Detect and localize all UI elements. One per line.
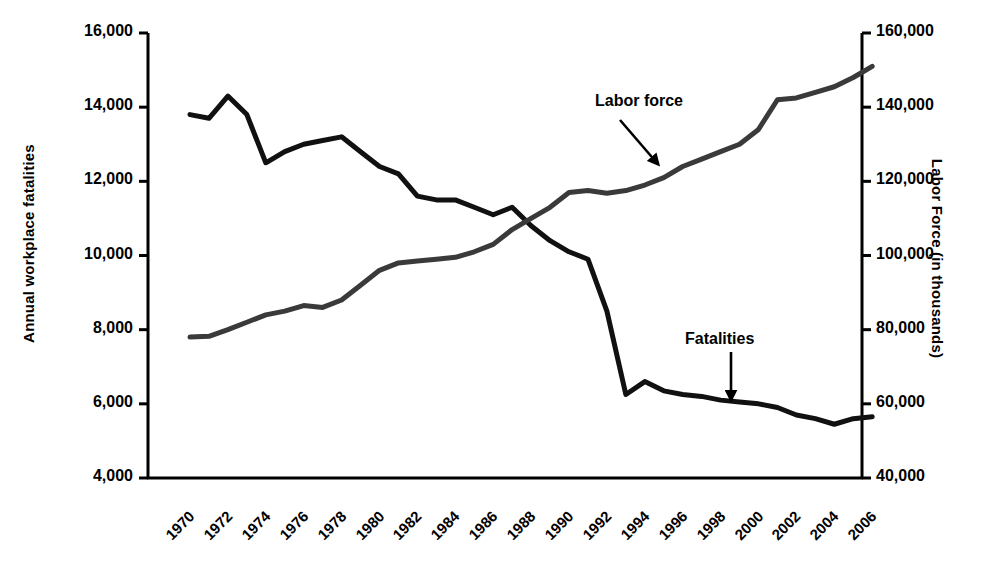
left-tick-label: 8,000: [43, 319, 133, 337]
chart-figure: Annual workplace fatalities Labor Force …: [0, 0, 1001, 562]
series-lines: [190, 66, 872, 424]
left-tick-label: 4,000: [43, 467, 133, 485]
right-tick-label: 80,000: [876, 319, 966, 337]
right-tick-label: 120,000: [876, 170, 966, 188]
series-annotation-label: Fatalities: [685, 330, 754, 348]
series-line-fatalities: [190, 96, 872, 424]
annotation-arrow: [620, 120, 657, 163]
series-annotation-label: Labor force: [595, 92, 683, 110]
plot-area: [0, 0, 1001, 562]
right-tick-label: 160,000: [876, 22, 966, 40]
right-tick-label: 40,000: [876, 467, 966, 485]
left-tick-label: 10,000: [43, 245, 133, 263]
right-tick-label: 100,000: [876, 245, 966, 263]
axis-lines: [147, 33, 863, 478]
annotation-arrows: [620, 120, 731, 398]
right-tick-label: 140,000: [876, 96, 966, 114]
left-tick-label: 16,000: [43, 22, 133, 40]
left-axis-title: Annual workplace fatalities: [20, 104, 37, 384]
left-tick-label: 6,000: [43, 393, 133, 411]
series-line-labor-force: [190, 66, 872, 337]
left-tick-label: 14,000: [43, 96, 133, 114]
right-tick-label: 60,000: [876, 393, 966, 411]
axis-tick-marks: [139, 33, 871, 478]
left-tick-label: 12,000: [43, 170, 133, 188]
